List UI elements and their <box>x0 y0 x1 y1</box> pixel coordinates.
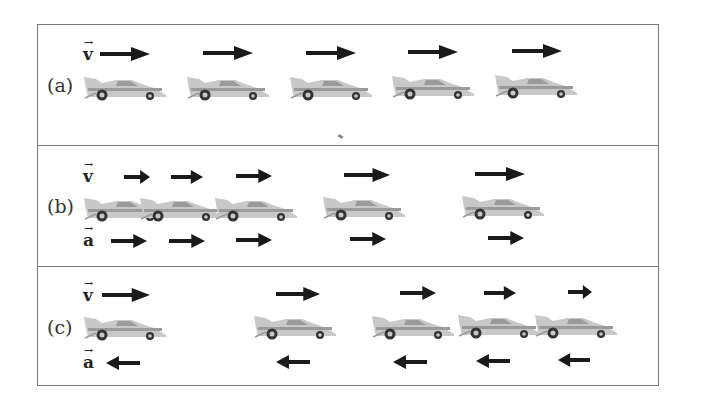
race-car-icon <box>533 309 619 339</box>
race-car-icon <box>456 309 542 339</box>
acceleration-arrow-right-icon <box>111 234 147 248</box>
motion-diagram-figure: (a) →v (b) →v →a (c) →v →a <box>37 24 659 386</box>
acceleration-symbol: →a <box>83 354 94 371</box>
race-car-icon <box>370 310 456 340</box>
velocity-symbol: →v <box>83 287 93 304</box>
velocity-arrow-right-icon <box>100 47 150 61</box>
race-car-icon <box>390 70 476 100</box>
panel-label: (a) <box>47 74 73 96</box>
velocity-arrow-right-icon <box>475 167 525 181</box>
velocity-arrow-right-icon <box>408 45 458 59</box>
velocity-arrow-right-icon <box>102 288 150 302</box>
panel-a-constant-velocity: (a) →v <box>38 25 658 145</box>
velocity-arrow-right-icon <box>124 170 150 184</box>
race-car-icon <box>460 190 546 220</box>
race-car-icon <box>321 191 407 221</box>
velocity-arrow-right-icon <box>512 44 562 58</box>
race-car-icon <box>493 69 579 99</box>
acceleration-arrow-left-icon <box>106 356 140 370</box>
acceleration-arrow-left-icon <box>558 353 590 367</box>
race-car-icon <box>288 71 374 101</box>
velocity-arrow-right-icon <box>484 286 516 300</box>
velocity-arrow-right-icon <box>171 170 203 184</box>
race-car-icon <box>82 311 168 341</box>
velocity-arrow-right-icon <box>568 285 592 299</box>
panel-c-slowing-down: (c) →v →a <box>38 266 658 386</box>
panel-label: (c) <box>47 316 72 338</box>
acceleration-arrow-left-icon <box>276 355 310 369</box>
acceleration-arrow-right-icon <box>236 233 272 247</box>
acceleration-arrow-right-icon <box>350 232 386 246</box>
acceleration-symbol: →a <box>83 232 94 249</box>
velocity-arrow-right-icon <box>236 169 272 183</box>
acceleration-arrow-left-icon <box>476 354 510 368</box>
race-car-icon <box>138 192 224 222</box>
velocity-symbol: →v <box>83 46 93 63</box>
velocity-arrow-right-icon <box>203 46 253 60</box>
velocity-arrow-right-icon <box>400 286 436 300</box>
velocity-arrow-right-icon <box>306 46 356 60</box>
velocity-symbol: →v <box>83 168 93 185</box>
race-car-icon <box>185 71 271 101</box>
race-car-icon <box>82 71 168 101</box>
acceleration-arrow-right-icon <box>488 231 524 245</box>
acceleration-arrow-left-icon <box>393 355 427 369</box>
panel-b-speeding-up: (b) →v →a <box>38 145 658 266</box>
velocity-arrow-right-icon <box>344 168 390 182</box>
race-car-icon <box>213 192 299 222</box>
velocity-arrow-right-icon <box>276 287 320 301</box>
panel-label: (b) <box>47 195 74 217</box>
acceleration-arrow-right-icon <box>169 234 205 248</box>
race-car-icon <box>252 310 338 340</box>
print-speck <box>338 134 344 139</box>
